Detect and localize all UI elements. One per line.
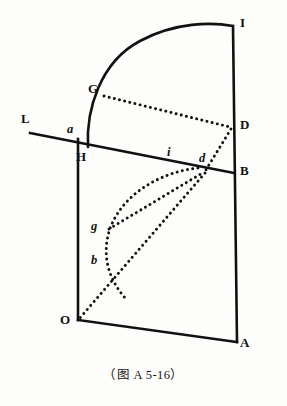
segment-d-O (79, 173, 205, 319)
vertex-label-i: i (167, 146, 170, 159)
chord-G-D (104, 96, 230, 127)
vertex-label-d: d (199, 152, 205, 165)
geometric-figure: I G L D B A O H a i d g b （图 A 5-16） (0, 0, 287, 406)
right-vertical-I-A (233, 26, 237, 342)
vertex-label-L: L (21, 112, 30, 125)
vertex-label-I: I (240, 16, 245, 29)
figure-caption: （图 A 5-16） (0, 364, 287, 383)
vertex-label-A: A (240, 336, 249, 349)
vertex-label-O: O (60, 313, 70, 326)
vertex-label-b: b (91, 254, 97, 267)
bottom-edge-O-A (78, 320, 237, 342)
vertex-label-a: a (67, 123, 73, 136)
segment-D-d (204, 129, 231, 173)
vertex-label-g: g (91, 220, 97, 233)
vertex-label-G: G (88, 82, 98, 95)
major-arc-H-G-I (88, 24, 233, 147)
vertex-label-B: B (240, 164, 249, 177)
vertex-label-H: H (76, 150, 86, 163)
vertex-label-D: D (240, 118, 249, 131)
